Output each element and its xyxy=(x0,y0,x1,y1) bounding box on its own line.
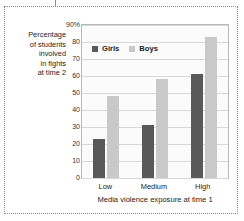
y-axis-tick-label: 20 xyxy=(72,140,80,147)
legend-label-girls: Girls xyxy=(102,44,119,53)
crop-mark-tick xyxy=(55,0,56,7)
bar-group-high xyxy=(179,25,228,178)
bar-boys-low xyxy=(107,96,119,178)
y-axis-tick-label: 10 xyxy=(72,157,80,164)
y-axis-tick-label: 90% xyxy=(66,21,80,28)
bar-girls-medium xyxy=(142,125,154,178)
x-axis-title: Media violence exposure at time 1 xyxy=(81,195,229,204)
gridline xyxy=(82,178,228,179)
bar-girls-high xyxy=(191,74,203,178)
bar-boys-high xyxy=(205,37,217,178)
legend-label-boys: Boys xyxy=(139,44,158,53)
bar-girls-low xyxy=(93,139,105,178)
y-axis-tick-label: 80 xyxy=(72,38,80,45)
x-axis-tick-label: Low xyxy=(99,182,113,191)
y-axis-tick-label: 0 xyxy=(76,174,80,181)
x-axis-tick-label: Medium xyxy=(141,182,167,191)
legend-item-girls: Girls xyxy=(92,44,119,53)
legend-swatch-girls xyxy=(92,46,98,52)
y-axis-tick-label: 40 xyxy=(72,106,80,113)
chart-figure: Percentage of students involved in fight… xyxy=(0,0,244,221)
y-axis-tick-labels: 90%80706050403020100 xyxy=(56,18,80,186)
y-axis-tick-label: 50 xyxy=(72,89,80,96)
bar-boys-medium xyxy=(156,79,168,178)
y-axis-tick-label: 30 xyxy=(72,123,80,130)
y-axis-tick-label: 70 xyxy=(72,55,80,62)
chart-legend: Girls Boys xyxy=(92,44,158,53)
x-axis-tick-labels: LowMediumHigh xyxy=(81,182,229,194)
x-axis-tick-label: High xyxy=(195,182,210,191)
y-axis-tick-label: 60 xyxy=(72,72,80,79)
legend-swatch-boys xyxy=(129,46,135,52)
legend-item-boys: Boys xyxy=(129,44,158,53)
